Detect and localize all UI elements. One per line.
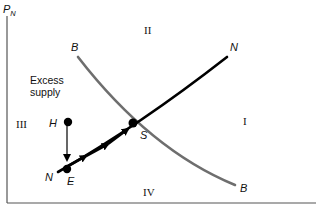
swan-diagram: PN B B N N S H E II I III IV Excess supp… [0, 0, 320, 209]
region-3-label: III [16, 118, 27, 130]
path-arrow-2 [86, 144, 108, 156]
y-axis-label: PN [3, 3, 16, 18]
n-curve [58, 57, 227, 172]
b-curve-label-top: B [71, 41, 78, 53]
point-e-label: E [67, 175, 75, 187]
point-h [64, 118, 72, 126]
region-2-label: II [144, 24, 152, 36]
point-e [63, 165, 71, 173]
path-arrow-3 [108, 129, 128, 144]
point-s [129, 119, 138, 128]
b-curve-label-bottom: B [240, 182, 247, 194]
region-1-label: I [243, 115, 247, 127]
n-curve-label-bottom: N [45, 171, 53, 183]
excess-supply-label-line2: supply [30, 86, 61, 98]
path-arrow-1 [68, 156, 86, 166]
point-s-label: S [140, 129, 148, 141]
region-4-label: IV [143, 186, 155, 198]
n-curve-label-top: N [230, 41, 238, 53]
b-curve [78, 57, 235, 185]
point-h-label: H [49, 117, 57, 129]
excess-supply-label-line1: Excess [30, 74, 64, 86]
